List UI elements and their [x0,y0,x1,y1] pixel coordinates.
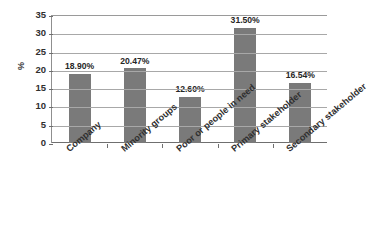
y-axis-tick-mark [49,144,53,145]
y-axis-tick-mark [49,34,53,35]
y-axis-tick-label: 35 [22,10,46,20]
y-axis-tick-label: 0 [22,138,46,148]
y-axis-tick-label: 25 [22,47,46,57]
bar-value-label: 31.50% [231,16,260,25]
y-axis-tick-mark [49,107,53,108]
y-axis-tick-mark [49,89,53,90]
y-axis-tick-label: 20 [22,65,46,75]
y-axis-tick-labels: 05101520253035 [22,15,46,143]
bar-value-label: 20.47% [120,57,149,66]
gridline [52,89,327,90]
y-axis-tick-mark [49,71,53,72]
y-axis-tick-label: 5 [22,120,46,130]
bar-value-label: 18.90% [65,62,94,71]
gridline [52,53,327,54]
y-axis-tick-label: 30 [22,29,46,39]
x-axis-category-labels: CompanyMinority groupsPoor or people in … [51,147,327,247]
bar-value-label: 16.54% [286,71,315,80]
gridline [52,34,327,35]
y-axis-tick-mark [49,16,53,17]
y-axis-tick-mark [49,53,53,54]
y-axis-tick-label: 15 [22,83,46,93]
gridline [52,71,327,72]
y-axis-tick-label: 10 [22,102,46,112]
y-axis-tick-mark [49,126,53,127]
